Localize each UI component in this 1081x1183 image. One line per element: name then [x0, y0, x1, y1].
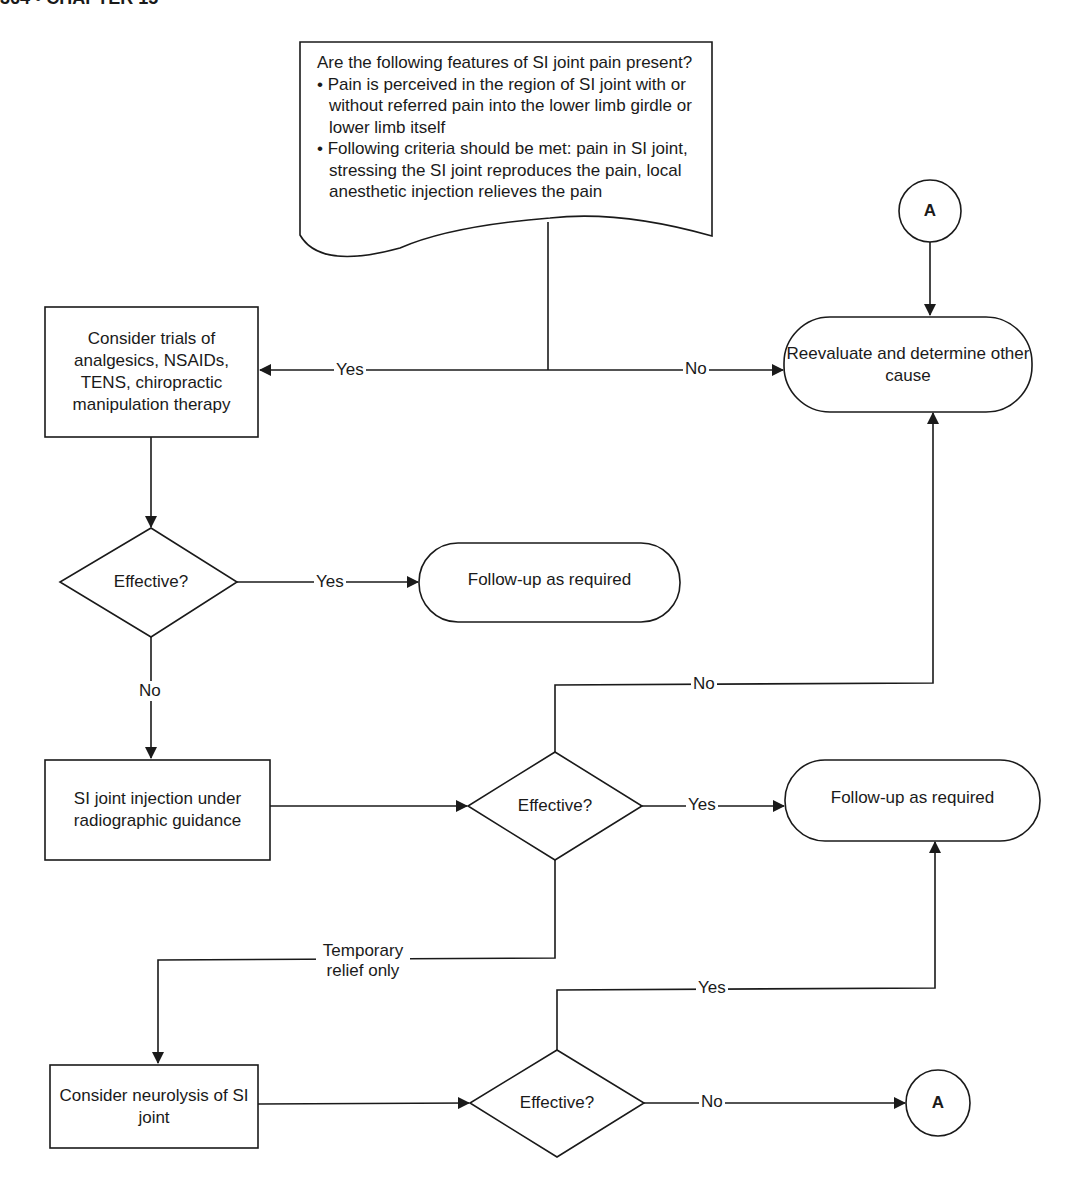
connector-a-bottom: A — [906, 1070, 970, 1136]
start-bullet-1: • Pain is perceived in the region of SI … — [317, 74, 717, 139]
edge-label-eff1-no: No — [137, 681, 163, 701]
edge-label-eff2-temporary: Temporary relief only — [316, 941, 410, 981]
start-bullet-2: • Following criteria should be met: pain… — [317, 138, 717, 203]
edge-label-eff2-yes: Yes — [686, 795, 718, 815]
connector-a-bottom-label: A — [932, 1093, 944, 1113]
decision-1: Effective? — [80, 567, 222, 597]
trial-box-label: Consider trials of analgesics, NSAIDs, T… — [47, 328, 256, 416]
followup-1-label: Follow-up as required — [468, 569, 631, 591]
reevaluate-label: Reevaluate and determine other cause — [784, 343, 1032, 387]
decision-1-label: Effective? — [114, 571, 188, 593]
trial-box: Consider trials of analgesics, NSAIDs, T… — [47, 309, 256, 435]
edge-label-eff1-yes: Yes — [314, 572, 346, 592]
edge-label-eff3-yes: Yes — [696, 978, 728, 998]
start-question-block: Are the following features of SI joint p… — [317, 52, 717, 203]
neurolysis-box: Consider neurolysis of SI joint — [52, 1067, 256, 1146]
connector-a-top: A — [899, 180, 961, 242]
edge-label-eff2-no: No — [691, 674, 717, 694]
followup-1: Follow-up as required — [419, 543, 680, 617]
edge-label-eff3-no: No — [699, 1092, 725, 1112]
followup-2: Follow-up as required — [785, 760, 1040, 836]
edge-label-start-no: No — [683, 359, 709, 379]
injection-box: SI joint injection under radiographic gu… — [47, 762, 268, 858]
edge-label-start-yes: Yes — [334, 360, 366, 380]
decision-2-label: Effective? — [518, 795, 592, 817]
followup-2-label: Follow-up as required — [831, 787, 994, 809]
connector-a-top-label: A — [924, 201, 936, 221]
injection-box-label: SI joint injection under radiographic gu… — [47, 788, 268, 832]
decision-3-label: Effective? — [520, 1092, 594, 1114]
decision-3: Effective? — [486, 1088, 628, 1118]
decision-2: Effective? — [484, 791, 626, 821]
reevaluate-node: Reevaluate and determine other cause — [784, 317, 1032, 412]
neurolysis-box-label: Consider neurolysis of SI joint — [52, 1085, 256, 1129]
start-question: Are the following features of SI joint p… — [317, 52, 717, 74]
